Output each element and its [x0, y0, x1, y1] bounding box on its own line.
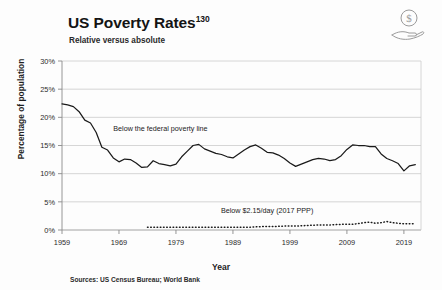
y-axis-ticks: 0%5%10%15%20%25%30%	[40, 57, 62, 235]
svg-text:1979: 1979	[168, 238, 184, 247]
sources-note: Sources: US Census Bureau; World Bank	[70, 276, 200, 283]
series-below-215-per-day	[147, 222, 415, 228]
svg-text:1999: 1999	[282, 238, 298, 247]
chart-plot-area: 0%5%10%15%20%25%30% 19591969197919891999…	[0, 0, 442, 290]
chart-figure: US Poverty Rates130 Relative versus abso…	[0, 0, 442, 290]
svg-text:30%: 30%	[40, 57, 55, 66]
svg-text:1959: 1959	[54, 238, 70, 247]
chart-annotations: Below the federal poverty lineBelow $2.1…	[113, 124, 313, 215]
svg-text:1989: 1989	[225, 238, 241, 247]
svg-text:Below the federal poverty line: Below the federal poverty line	[113, 124, 207, 133]
y-axis-label: Percentage of population	[16, 54, 26, 164]
svg-text:5%: 5%	[44, 198, 55, 207]
svg-text:25%: 25%	[40, 85, 55, 94]
svg-text:Below $2.15/day (2017 PPP): Below $2.15/day (2017 PPP)	[221, 206, 313, 215]
series-federal-poverty-line	[62, 104, 415, 171]
svg-text:15%: 15%	[40, 141, 55, 150]
x-axis-ticks: 1959196919791989199920092019	[54, 230, 412, 247]
svg-text:0%: 0%	[44, 226, 55, 235]
svg-text:2019: 2019	[396, 238, 412, 247]
svg-text:10%: 10%	[40, 169, 55, 178]
svg-text:1969: 1969	[111, 238, 127, 247]
svg-text:2009: 2009	[339, 238, 355, 247]
svg-text:20%: 20%	[40, 113, 55, 122]
x-axis-label: Year	[0, 262, 442, 272]
